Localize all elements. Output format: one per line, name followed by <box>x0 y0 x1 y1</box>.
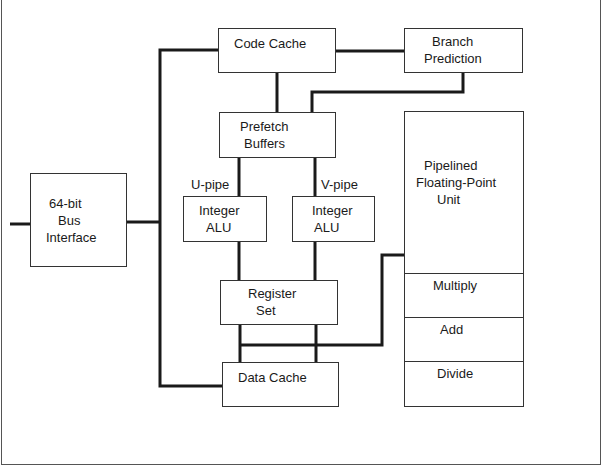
prefetch-buffers-block: Prefetch Buffers <box>219 112 336 158</box>
register-set-block: Register Set <box>220 280 338 325</box>
bus-interface-line1: 64-bit <box>49 195 82 212</box>
fpu-multiply-label: Multiply <box>433 277 477 294</box>
register-set-line2: Set <box>256 302 276 319</box>
integer-alu-u-line2: ALU <box>206 219 231 236</box>
fpu-line3: Unit <box>437 191 460 208</box>
fpu-divide-section: Divide <box>405 361 523 406</box>
fpu-add-label: Add <box>440 321 463 338</box>
fpu-multiply-section: Multiply <box>405 273 523 317</box>
integer-alu-v-block: Integer ALU <box>292 196 375 242</box>
fpu-divide-label: Divide <box>437 365 473 382</box>
u-pipe-label: U-pipe <box>191 177 229 193</box>
fpu-block: Pipelined Floating-Point Unit Multiply A… <box>404 111 524 407</box>
prefetch-buffers-line2: Buffers <box>244 135 285 152</box>
code-cache-label: Code Cache <box>234 35 306 52</box>
bus-interface-block: 64-bit Bus Interface <box>30 173 127 267</box>
fpu-line1: Pipelined <box>424 157 478 174</box>
branch-prediction-block: Branch Prediction <box>404 28 523 73</box>
data-cache-block: Data Cache <box>222 362 339 407</box>
v-pipe-label: V-pipe <box>321 177 358 193</box>
register-set-line1: Register <box>248 285 296 302</box>
prefetch-buffers-line1: Prefetch <box>240 118 288 135</box>
bus-interface-line3: Interface <box>46 229 97 246</box>
branch-prediction-line1: Branch <box>432 33 473 50</box>
integer-alu-v-line2: ALU <box>314 219 339 236</box>
code-cache-block: Code Cache <box>218 28 336 73</box>
bus-interface-line2: Bus <box>58 212 80 229</box>
integer-alu-u-block: Integer ALU <box>183 196 267 242</box>
data-cache-label: Data Cache <box>238 369 307 386</box>
branch-prediction-line2: Prediction <box>424 50 482 67</box>
fpu-add-section: Add <box>405 317 523 361</box>
integer-alu-u-line1: Integer <box>199 202 239 219</box>
integer-alu-v-line1: Integer <box>312 202 352 219</box>
fpu-line2: Floating-Point <box>416 174 496 191</box>
